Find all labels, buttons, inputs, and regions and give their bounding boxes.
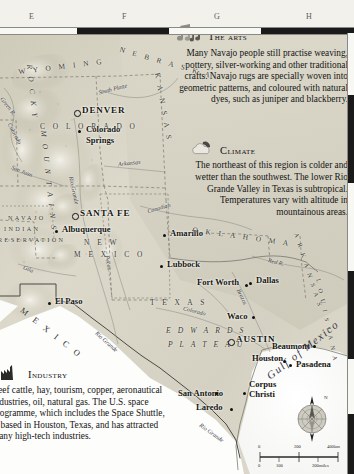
infobox-the-arts: The arts Many Navajo people still practi… xyxy=(176,24,348,106)
map-label-indian: INDIAN xyxy=(4,225,40,232)
grid-bar-right xyxy=(347,33,354,474)
grid-vsegment-6 xyxy=(348,414,354,474)
factory-icon xyxy=(0,364,24,385)
compass-rose: N xyxy=(288,392,336,444)
capital-marker-austin xyxy=(228,339,235,346)
map-label-santa-fe: SANTA FE xyxy=(80,208,130,218)
capital-marker-denver xyxy=(74,110,81,117)
map-label-new: N E W xyxy=(84,238,119,247)
map-label-denver: DENVER xyxy=(82,105,125,115)
infobox-industry-body: Beef cattle, hay, tourism, copper, aeron… xyxy=(0,385,170,443)
infobox-climate: Climate The northeast of this region is … xyxy=(190,140,348,218)
scale-km-400: 400km xyxy=(327,444,340,449)
map-label-waco: Waco xyxy=(227,311,248,321)
grid-segment-g xyxy=(169,28,261,34)
scale-bar: 0 200 400km 0 100 200miles xyxy=(256,444,344,470)
map-label-fort-worth: Fort Worth xyxy=(197,277,239,287)
map-label-corpus-christi: Corpus Christi xyxy=(249,379,289,399)
grid-vsegment-5 xyxy=(348,359,354,414)
cloud-sun-icon xyxy=(190,140,216,160)
infobox-industry-heading: Industry xyxy=(28,369,67,380)
grid-segment-h xyxy=(261,28,354,34)
map-label-lubbock: Lubbock xyxy=(167,259,200,269)
grid-label-h: H xyxy=(306,12,312,21)
atlas-map-page: E F G H The arts Many Navajo people xyxy=(0,0,354,474)
map-label-reservation: RESERVATION xyxy=(0,236,65,243)
map-label-colorado: C O L O R A D O xyxy=(40,122,138,131)
map-label-pasadena: Pasadena xyxy=(296,359,331,369)
grid-vsegment-2 xyxy=(348,95,354,183)
map-label-texas: T E X A S xyxy=(150,298,207,307)
grid-vsegment-3 xyxy=(348,183,354,271)
grid-label-e: E xyxy=(29,12,34,21)
map-label-navajo: NAVAJO xyxy=(8,214,46,221)
svg-text:N: N xyxy=(324,395,328,400)
scale-mi-200: 200miles xyxy=(312,463,329,468)
infobox-climate-body: The northeast of this region is colder a… xyxy=(190,160,348,218)
grid-segment-f xyxy=(77,28,169,34)
infobox-industry: Industry Beef cattle, hay, tourism, copp… xyxy=(0,364,170,443)
map-label-laredo: Laredo xyxy=(196,402,223,412)
grid-segment-e xyxy=(0,28,77,34)
capital-marker-santa-fe xyxy=(72,213,79,220)
grid-vsegment-4 xyxy=(348,271,354,359)
map-label-edwards: E D W A R D S xyxy=(166,326,246,335)
grid-bar-top xyxy=(0,27,354,35)
infobox-climate-heading: Climate xyxy=(220,145,255,156)
scale-km-200: 200 xyxy=(294,444,301,449)
infobox-the-arts-body: Many Navajo people still practise weavin… xyxy=(176,48,348,106)
scale-km-0: 0 xyxy=(258,444,260,449)
scale-mi-0: 0 xyxy=(258,463,260,468)
grid-vsegment-1 xyxy=(348,33,354,95)
map-label-el-paso: El Paso xyxy=(55,296,82,306)
scale-mi-100: 100 xyxy=(276,463,283,468)
grid-label-f: F xyxy=(122,12,127,21)
map-label-albuquerque: Albuquerque xyxy=(62,224,111,234)
map-label-dallas: Dallas xyxy=(256,275,279,285)
grid-label-g: G xyxy=(214,12,220,21)
